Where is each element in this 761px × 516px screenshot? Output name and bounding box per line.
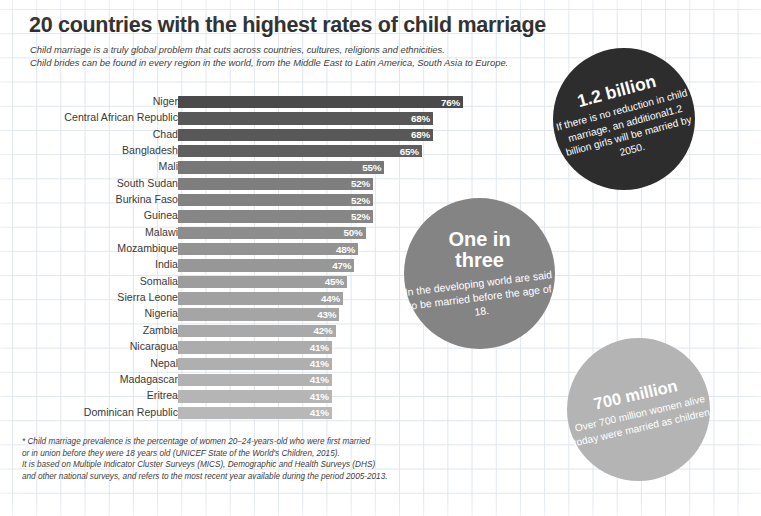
bar: 41% xyxy=(178,390,332,402)
callout-one-in-three: One in three In the developing world are… xyxy=(404,198,555,349)
bar: 45% xyxy=(178,276,347,288)
bar: 43% xyxy=(178,308,339,320)
bar: 41% xyxy=(178,374,332,386)
callout-1-2-billion: 1.2 billion If there is no reduction in … xyxy=(553,48,695,190)
chart-row: Sierra Leone44% xyxy=(0,291,761,307)
footnote-line-4: and other national surveys, and refers t… xyxy=(22,471,387,483)
chart-row: Nigeria43% xyxy=(0,307,761,323)
bar: 52% xyxy=(178,178,373,190)
callout-700-million: 700 million Over 700 million women alive… xyxy=(567,338,710,481)
category-label: Nepal xyxy=(0,356,178,370)
bar: 47% xyxy=(178,259,354,271)
bar-value-label: 41% xyxy=(310,373,329,386)
category-label: Malawi xyxy=(0,225,178,239)
bar: 52% xyxy=(178,210,373,222)
bar-value-label: 47% xyxy=(332,259,351,272)
bar-value-label: 65% xyxy=(400,145,419,158)
bar: 55% xyxy=(178,161,384,173)
category-label: Madagascar xyxy=(0,372,178,386)
bar-value-label: 76% xyxy=(441,96,460,109)
bar-value-label: 44% xyxy=(321,292,340,305)
category-label: Nicaragua xyxy=(0,339,178,353)
bar-value-label: 55% xyxy=(362,161,381,174)
callout-mid-headline-line-1: One in xyxy=(448,229,510,251)
subtitle-line-1: Child marriage is a truly global problem… xyxy=(30,44,508,57)
footnote-line-3: It is based on Multiple Indicator Cluste… xyxy=(22,459,387,471)
bar-value-label: 68% xyxy=(411,128,430,141)
bar-value-label: 68% xyxy=(411,112,430,125)
chart-row: India47% xyxy=(0,258,761,274)
footnote-line-1: * Child marriage prevalence is the perce… xyxy=(22,436,387,448)
category-label: Sierra Leone xyxy=(0,290,178,304)
chart-row: Burkina Faso52% xyxy=(0,193,761,209)
category-label: Burkina Faso xyxy=(0,192,178,206)
category-label: Zambia xyxy=(0,323,178,337)
bar-value-label: 43% xyxy=(317,308,336,321)
bar: 41% xyxy=(178,407,332,419)
category-label: Dominican Republic xyxy=(0,405,178,419)
chart-row: Malawi50% xyxy=(0,226,761,242)
category-label: Guinea xyxy=(0,208,178,222)
bar-value-label: 52% xyxy=(351,210,370,223)
footnote: * Child marriage prevalence is the perce… xyxy=(22,436,387,482)
category-label: Chad xyxy=(0,127,178,141)
bar: 65% xyxy=(178,145,422,157)
callout-mid-body: In the developing world are said to be m… xyxy=(402,267,556,328)
bar: 68% xyxy=(178,129,433,141)
category-label: Mozambique xyxy=(0,241,178,255)
category-label: Niger xyxy=(0,94,178,108)
category-label: Eritrea xyxy=(0,388,178,402)
subtitle-line-2: Child brides can be found in every regio… xyxy=(30,57,508,70)
callout-mid-headline-line-2: three xyxy=(455,250,504,272)
page-subtitle: Child marriage is a truly global problem… xyxy=(30,44,508,69)
category-label: South Sudan xyxy=(0,176,178,190)
chart-row: Guinea52% xyxy=(0,209,761,225)
category-label: Mali xyxy=(0,159,178,173)
bar: 68% xyxy=(178,112,433,124)
bar-value-label: 50% xyxy=(343,226,362,239)
chart-row: Mozambique48% xyxy=(0,242,761,258)
bar: 42% xyxy=(178,325,336,337)
footnote-line-2: or in union before they were 18 years ol… xyxy=(22,448,387,460)
infographic-page: 20 countries with the highest rates of c… xyxy=(0,0,761,516)
bar: 50% xyxy=(178,227,366,239)
bar: 41% xyxy=(178,341,332,353)
bar: 52% xyxy=(178,194,373,206)
bar-value-label: 42% xyxy=(313,324,332,337)
bar-value-label: 41% xyxy=(310,406,329,419)
chart-row: Somalia45% xyxy=(0,275,761,291)
bar-value-label: 41% xyxy=(310,357,329,370)
bar-value-label: 52% xyxy=(351,194,370,207)
category-label: Nigeria xyxy=(0,306,178,320)
bar-value-label: 48% xyxy=(336,243,355,256)
bar: 76% xyxy=(178,96,463,108)
bar: 48% xyxy=(178,243,358,255)
category-label: Bangladesh xyxy=(0,143,178,157)
bar: 44% xyxy=(178,292,343,304)
bar-value-label: 41% xyxy=(310,390,329,403)
category-label: Central African Republic xyxy=(0,110,178,124)
bar-value-label: 52% xyxy=(351,177,370,190)
bar-value-label: 41% xyxy=(310,341,329,354)
bar: 41% xyxy=(178,358,332,370)
page-title: 20 countries with the highest rates of c… xyxy=(29,13,546,38)
category-label: India xyxy=(0,257,178,271)
category-label: Somalia xyxy=(0,274,178,288)
bar-value-label: 45% xyxy=(325,275,344,288)
